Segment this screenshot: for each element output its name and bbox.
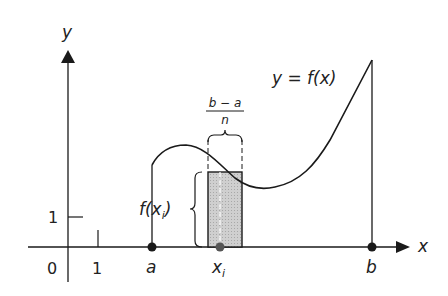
point-b bbox=[368, 243, 377, 252]
point-a bbox=[148, 243, 157, 252]
curve-f bbox=[152, 60, 372, 188]
width-brace bbox=[208, 130, 242, 142]
x-axis-label: x bbox=[417, 236, 429, 256]
point-xi bbox=[216, 243, 225, 252]
xi-label: xi bbox=[211, 257, 225, 280]
y-axis-arrow-icon bbox=[61, 50, 75, 63]
riemann-rectangle bbox=[208, 172, 242, 247]
xi-label-subscript: i bbox=[222, 267, 225, 280]
a-label: a bbox=[146, 257, 156, 277]
width-denominator: n bbox=[221, 113, 229, 127]
origin-label: 0 bbox=[47, 259, 57, 278]
height-brace bbox=[190, 172, 202, 247]
y-tick-label: 1 bbox=[48, 208, 58, 227]
x-axis-arrow-icon bbox=[396, 241, 410, 253]
b-label: b bbox=[366, 257, 377, 277]
width-numerator: b − a bbox=[209, 96, 242, 110]
curve-label: y = f(x) bbox=[271, 68, 336, 88]
height-label: f(xi) bbox=[139, 199, 171, 222]
height-label-suffix: ) bbox=[163, 199, 172, 219]
x-tick-label: 1 bbox=[92, 259, 102, 278]
height-label-prefix: f(x bbox=[139, 199, 163, 219]
riemann-diagram: y x 0 1 1 y = f(x) a b xi b − a n f(xi) bbox=[0, 0, 448, 296]
y-axis-label: y bbox=[61, 22, 73, 42]
